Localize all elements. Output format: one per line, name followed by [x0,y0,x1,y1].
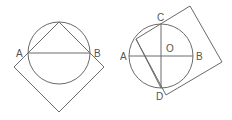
right-label-b: B [196,51,203,62]
left-label-a: A [16,48,23,59]
right-figure: A B C D O [120,6,222,102]
right-label-c: C [157,12,164,23]
geometry-diagram: A B A B C D O [0,0,232,120]
right-label-a: A [120,51,127,62]
right-label-d: D [156,91,163,102]
right-square [136,6,222,95]
right-label-o: O [166,43,174,54]
left-label-b: B [94,48,101,59]
left-figure: A B [14,22,104,112]
left-square [14,22,104,112]
right-chord-to-d [136,39,161,88]
